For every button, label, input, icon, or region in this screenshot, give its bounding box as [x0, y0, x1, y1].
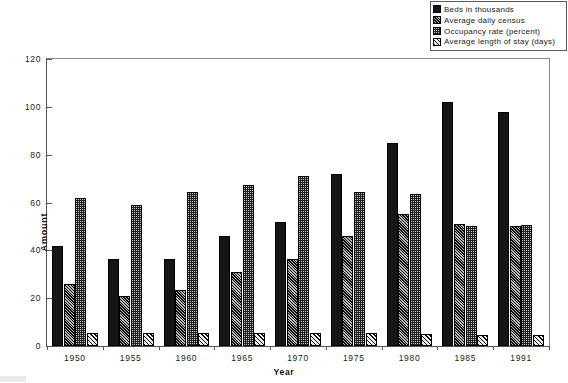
legend-swatch-diagonal-stripe-icon	[433, 38, 441, 46]
bar	[143, 333, 154, 346]
legend-item-occupancy-rate: Occupancy rate (percent)	[433, 26, 564, 37]
bar-group	[219, 59, 265, 346]
bar-group	[52, 59, 98, 346]
bar	[287, 259, 298, 346]
bar-group	[442, 59, 488, 346]
y-axis-tick-label: 60	[1, 198, 41, 208]
bar	[331, 174, 342, 346]
bar	[254, 333, 265, 346]
y-axis-tick-label: 100	[1, 102, 41, 112]
bar-group	[498, 59, 544, 346]
x-axis-tick-mark	[103, 346, 104, 350]
legend-item-average-length-of-stay: Average length of stay (days)	[433, 37, 564, 48]
x-axis-tick-label: 1980	[380, 353, 440, 363]
x-axis-tick-label: 1950	[45, 353, 105, 363]
bar	[410, 194, 421, 346]
x-axis-tick-label: 1955	[101, 353, 161, 363]
bar	[187, 192, 198, 346]
y-axis-tick-label: 80	[1, 150, 41, 160]
bar-group	[164, 59, 210, 346]
bar	[533, 335, 544, 346]
y-axis-tick-label: 120	[1, 54, 41, 64]
bar	[87, 333, 98, 346]
bar-group	[275, 59, 321, 346]
bar	[198, 333, 209, 346]
legend-label-average-length-of-stay: Average length of stay (days)	[444, 37, 555, 46]
bar	[454, 224, 465, 346]
x-axis-title: Year	[0, 367, 568, 377]
y-axis-tick-label: 40	[1, 245, 41, 255]
scan-artifact	[0, 376, 26, 382]
x-axis-tick-mark	[493, 346, 494, 350]
bar	[119, 296, 130, 346]
legend-label-beds: Beds in thousands	[444, 5, 514, 14]
bar-group	[108, 59, 154, 346]
bar	[387, 143, 398, 346]
bar	[219, 236, 230, 346]
legend-swatch-diagonal-hatch-icon	[433, 16, 441, 24]
bar	[442, 102, 453, 346]
x-axis-tick-label: 1985	[435, 353, 495, 363]
bar	[108, 259, 119, 346]
bar-chart-figure: Beds in thousands Average daily census O…	[0, 0, 568, 383]
x-axis-tick-mark	[382, 346, 383, 350]
bar	[175, 290, 186, 346]
bar	[64, 284, 75, 346]
bar	[354, 192, 365, 346]
x-axis-tick-mark	[47, 346, 48, 350]
plot-area: Amount 020406080100120 19501955196019651…	[46, 58, 550, 347]
legend-swatch-solid-black-icon	[433, 5, 441, 13]
legend-swatch-checkerboard-icon	[433, 27, 441, 35]
bar	[75, 198, 86, 346]
x-axis-tick-label: 1965	[212, 353, 272, 363]
bar	[342, 236, 353, 346]
x-axis-tick-mark	[214, 346, 215, 350]
bar	[231, 272, 242, 346]
bar	[366, 333, 377, 346]
chart-legend: Beds in thousands Average daily census O…	[430, 1, 567, 51]
x-axis-tick-label: 1975	[324, 353, 384, 363]
x-axis-tick-mark	[159, 346, 160, 350]
x-axis-tick-label: 1991	[491, 353, 551, 363]
bar	[498, 112, 509, 346]
bar	[52, 246, 63, 346]
bar	[477, 335, 488, 346]
legend-label-average-daily-census: Average daily census	[444, 16, 525, 25]
bar-group	[387, 59, 433, 346]
bar	[298, 176, 309, 346]
bar	[164, 259, 175, 346]
x-axis-tick-mark	[437, 346, 438, 350]
x-axis-tick-label: 1970	[268, 353, 328, 363]
y-axis-tick-label: 0	[1, 341, 41, 351]
x-axis-tick-mark	[549, 346, 550, 350]
bar	[421, 334, 432, 346]
legend-item-beds: Beds in thousands	[433, 4, 564, 15]
legend-item-average-daily-census: Average daily census	[433, 15, 564, 26]
bar	[398, 214, 409, 346]
bar	[466, 226, 477, 346]
bar	[131, 205, 142, 346]
x-axis-tick-mark	[270, 346, 271, 350]
bar-group	[331, 59, 377, 346]
bar	[521, 225, 532, 346]
bar	[243, 185, 254, 346]
x-axis-tick-mark	[326, 346, 327, 350]
x-axis-tick-label: 1960	[156, 353, 216, 363]
bar	[275, 222, 286, 346]
y-axis-tick-label: 20	[1, 293, 41, 303]
legend-label-occupancy-rate: Occupancy rate (percent)	[444, 27, 540, 36]
bar	[510, 226, 521, 346]
bar	[310, 333, 321, 346]
